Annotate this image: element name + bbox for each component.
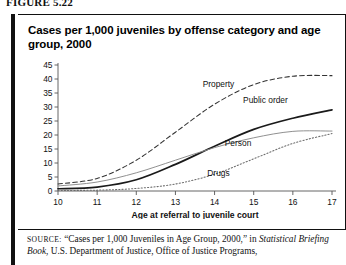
line-chart-svg: 0510152025303540451011121314151617Age at… [32, 59, 344, 219]
y-tick-label: 30 [43, 102, 53, 112]
plot-area: 0510152025303540451011121314151617Age at… [32, 59, 344, 219]
y-tick-label: 20 [43, 130, 53, 140]
series-label-public-order: Public order [243, 95, 288, 105]
y-tick-label: 25 [43, 116, 53, 126]
y-tick-label: 40 [43, 74, 53, 84]
x-tick-label: 10 [53, 197, 63, 207]
x-tick-label: 13 [171, 197, 181, 207]
series-label-drugs: Drugs [207, 168, 229, 178]
x-tick-label: 15 [249, 197, 259, 207]
x-axis-title: Age at referral to juvenile court [131, 210, 258, 219]
source-rest: , U.S. Department of Justice, Office of … [46, 246, 257, 256]
chart-title: Cases per 1,000 juveniles by offense cat… [28, 24, 328, 51]
x-tick-label: 14 [210, 197, 220, 207]
y-tick-label: 35 [43, 88, 53, 98]
x-tick-label: 17 [327, 197, 337, 207]
y-tick-label: 15 [43, 144, 53, 154]
x-tick-label: 16 [288, 197, 298, 207]
series-line-property [58, 75, 332, 184]
series-label-property: Property [203, 79, 235, 89]
y-tick-label: 10 [43, 158, 53, 168]
series-label-person: Person [225, 138, 252, 148]
x-tick-label: 12 [132, 197, 142, 207]
figure-number-label: FIGURE 5.22 [6, 0, 73, 8]
chart-panel: Cases per 1,000 juveniles by offense cat… [18, 14, 346, 230]
source-in-word: in [249, 234, 256, 244]
y-tick-label: 5 [48, 172, 53, 182]
left-accent-rule [11, 14, 15, 265]
x-tick-label: 11 [93, 197, 102, 207]
source-note: SOURCE: “Cases per 1,000 Juveniles in Ag… [27, 234, 341, 257]
y-tick-label: 45 [43, 60, 53, 70]
source-prefix: SOURCE: [27, 235, 62, 244]
series-line-public-order [58, 110, 332, 189]
source-quoted-title: “Cases per 1,000 Juveniles in Age Group,… [64, 234, 247, 244]
y-tick-label: 0 [48, 186, 53, 196]
